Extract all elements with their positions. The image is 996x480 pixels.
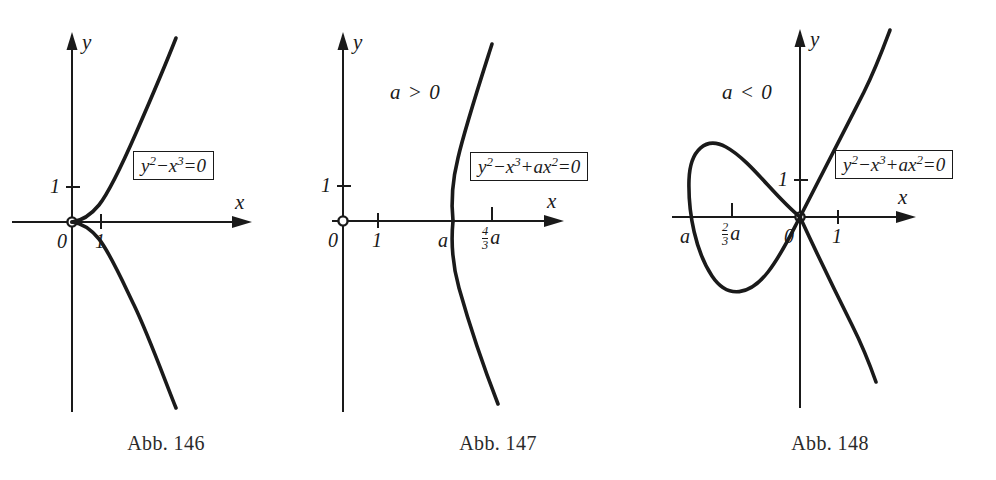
eq-minus-148: − (858, 154, 871, 175)
y-tick-label-1-148: 1 (778, 169, 788, 189)
fraction-denominator-147: 3 (482, 238, 488, 252)
eq-rhs-148: 0 (936, 154, 946, 175)
figure-abb-147: y x 1 0 1 a 4 3 a a > 0 y2−x3+ax2=0 Abb.… (332, 0, 664, 480)
curve-upper-146 (72, 38, 176, 222)
caption-abb-146: Abb. 146 (0, 432, 332, 455)
condition-label-147: a > 0 (390, 82, 441, 103)
eq-plus-148: + (886, 154, 899, 175)
x-axis-146 (12, 216, 252, 228)
figure-abb-146: y x 1 1 0 y2−x3=0 Abb. 146 (0, 0, 332, 480)
condition-label-148: a < 0 (722, 82, 773, 103)
curve-upper-147 (452, 44, 492, 221)
curve-lower-146 (72, 222, 176, 408)
origin-label-146: 0 (57, 231, 67, 251)
eq-x-146: x (169, 155, 177, 176)
x-label-a-147: a (438, 230, 448, 250)
equation-box-148: y2−x3+ax2=0 (835, 150, 953, 179)
eq-x-148: x (871, 154, 879, 175)
equation-box-147: y2−x3+ax2=0 (470, 152, 588, 181)
origin-label-148: 0 (784, 226, 794, 246)
eq-equals-148: = (923, 154, 936, 175)
y-tick-label-1-146: 1 (50, 176, 60, 196)
eq-rhs-147: 0 (571, 156, 581, 177)
plot-abb-148 (664, 0, 996, 430)
eq-equals-147: = (558, 156, 571, 177)
fraction-suffix-148: a (730, 222, 740, 244)
y-axis-label-148: y (810, 29, 819, 50)
caption-abb-147: Abb. 147 (332, 432, 664, 455)
equation-box-146: y2−x3=0 (133, 151, 214, 180)
y-tick-label-1-147: 1 (321, 175, 331, 195)
x-label-a-148: a (680, 226, 690, 246)
x-axis-label-146: x (235, 192, 244, 213)
x-tick-label-1-147: 1 (372, 230, 382, 250)
y-axis-label-146: y (82, 32, 91, 53)
eq-equals-146: = (184, 155, 197, 176)
plot-abb-147 (332, 0, 664, 430)
y-axis-label-147: y (353, 32, 362, 53)
eq-a-147: a (533, 156, 543, 177)
eq-plus-147: + (521, 156, 534, 177)
fraction-denominator-148: 3 (722, 234, 728, 248)
figure-abb-148: y x 1 a 0 1 2 3 a a < 0 y2−x3+ax2=0 Abb.… (664, 0, 996, 480)
x-axis-label-148: x (898, 187, 907, 208)
x-axis-147 (332, 215, 564, 227)
fraction-numerator-147: 4 (482, 225, 488, 238)
figure-sheet: y x 1 1 0 y2−x3=0 Abb. 146 (0, 0, 996, 480)
eq-minus-146: − (156, 155, 169, 176)
x-label-frac-a-147: 4 3 a (482, 226, 500, 252)
eq-minus-147: − (493, 156, 506, 177)
x-tick-label-1-148: 1 (832, 226, 842, 246)
fraction-two-thirds-148: 2 3 (722, 221, 728, 247)
curve-right-upper-148 (800, 30, 890, 217)
eq-x-147: x (506, 156, 514, 177)
eq-a-148: a (898, 154, 908, 175)
fraction-suffix-147: a (490, 226, 500, 248)
eq-rhs-146: 0 (196, 155, 206, 176)
fraction-numerator-148: 2 (722, 221, 728, 234)
x-label-frac-a-148: 2 3 a (722, 222, 740, 248)
x-axis-label-147: x (547, 191, 556, 212)
plot-abb-146 (0, 0, 332, 430)
x-tick-label-1-146: 1 (95, 231, 105, 251)
fraction-four-thirds-147: 4 3 (482, 225, 488, 251)
origin-point-147 (338, 216, 347, 225)
caption-abb-148: Abb. 148 (664, 432, 996, 455)
origin-label-147: 0 (328, 230, 338, 250)
